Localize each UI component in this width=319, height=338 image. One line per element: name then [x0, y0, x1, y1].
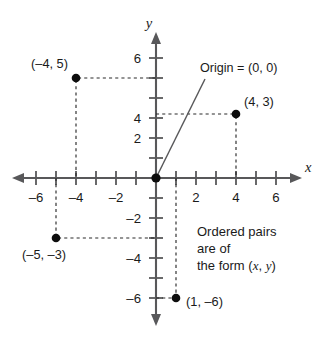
x-tick-label-neg4: –4 [69, 190, 84, 205]
x-tick-label-neg6: –6 [29, 190, 44, 205]
y-tick-label-neg6: –6 [126, 291, 141, 306]
y-axis-arrow-up [151, 32, 161, 44]
x-axis-label: x [304, 159, 312, 175]
data-point-neg4-5[interactable] [72, 74, 81, 83]
y-tick-label-6: 6 [134, 51, 141, 66]
note-line-3-comma: , [258, 258, 265, 273]
data-point-1-neg6[interactable] [172, 294, 181, 303]
origin-callout-leader-line [157, 79, 205, 176]
point-label-4-3: (4, 3) [244, 94, 274, 109]
coordinate-plane-svg: x y –6 –4 –2 2 4 6 6 4 2 –2 –4 –6 (–4, 5… [0, 0, 319, 338]
x-axis-arrow-right [290, 173, 302, 183]
point-label-1-neg6: (1, –6) [186, 294, 223, 309]
point-label-neg4-5: (–4, 5) [31, 56, 68, 71]
note-line-3-prefix: the form ( [197, 258, 253, 273]
y-tick-label-neg2: –2 [126, 211, 141, 226]
data-point-neg5-neg3[interactable] [52, 234, 61, 243]
data-point-origin[interactable] [151, 173, 160, 182]
guide-lines-point-2 [156, 114, 236, 178]
coordinate-plane-figure: x y –6 –4 –2 2 4 6 6 4 2 –2 –4 –6 (–4, 5… [0, 0, 319, 338]
note-line-2: are of [197, 241, 231, 256]
y-tick-label-4: 4 [134, 111, 141, 126]
y-axis-arrow-down [151, 314, 161, 326]
y-axis-label: y [144, 15, 153, 31]
point-label-neg5-neg3: (–5, –3) [22, 247, 66, 262]
x-tick-label-4: 4 [232, 190, 239, 205]
note-line-3-suffix: ) [271, 258, 275, 273]
x-tick-label-6: 6 [272, 190, 279, 205]
origin-callout-label: Origin = (0, 0) [200, 61, 277, 75]
guide-lines-point-3 [56, 178, 156, 238]
x-axis-arrow-left [12, 173, 24, 183]
x-tick-label-2: 2 [192, 190, 199, 205]
data-point-4-3[interactable] [232, 110, 241, 119]
guide-lines-point-1 [76, 78, 156, 178]
y-tick-label-2: 2 [134, 131, 141, 146]
ordered-pairs-note: Ordered pairs are of the form (x, y) [197, 224, 277, 273]
note-line-3: the form (x, y) [197, 258, 276, 273]
y-tick-label-neg4: –4 [126, 251, 141, 266]
x-tick-label-neg2: –2 [109, 190, 124, 205]
note-line-1: Ordered pairs [197, 224, 277, 239]
